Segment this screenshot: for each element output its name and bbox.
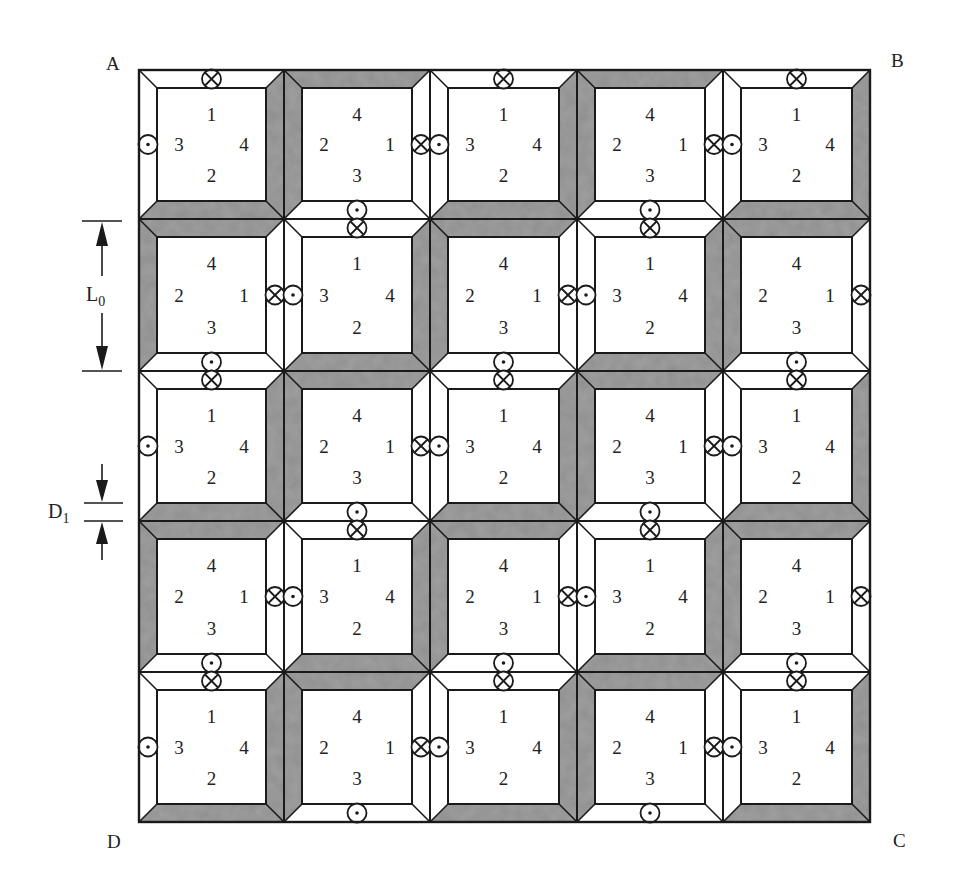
- current-in-cross-icon: [266, 286, 285, 305]
- label-top: 1: [645, 253, 655, 274]
- label-top: 1: [207, 405, 217, 426]
- label-right: 1: [678, 737, 688, 758]
- current-out-dot-icon: [430, 135, 449, 154]
- label-left: 3: [465, 436, 475, 457]
- coil-cell-r5c3: 1234: [430, 672, 577, 822]
- label-left: 2: [465, 285, 475, 306]
- label-bottom: 3: [499, 317, 509, 338]
- coil-cell-r2c2: 1234: [284, 219, 430, 371]
- current-in-cross-icon: [852, 286, 871, 305]
- current-in-cross-icon: [202, 70, 221, 89]
- current-out-dot-icon: [641, 503, 660, 522]
- label-bottom: 3: [207, 317, 217, 338]
- current-out-dot-icon: [430, 437, 449, 456]
- current-out-dot-icon: [348, 804, 367, 823]
- current-in-cross-icon: [202, 371, 221, 390]
- label-top: 4: [645, 706, 655, 727]
- label-right: 4: [532, 134, 542, 155]
- label-left: 2: [465, 586, 475, 607]
- corner-label-c: C: [893, 830, 906, 852]
- current-out-dot-icon: [641, 201, 660, 220]
- coil-cell-r2c5: 4321: [723, 219, 870, 371]
- label-bottom: 3: [645, 768, 655, 789]
- current-out-dot-icon: [723, 738, 742, 757]
- current-in-cross-icon: [641, 521, 660, 540]
- label-top: 4: [645, 104, 655, 125]
- label-right: 4: [239, 134, 249, 155]
- label-bottom: 3: [352, 768, 362, 789]
- coil-cell-r5c4: 4321: [577, 672, 723, 822]
- coil-cell-r1c3: 1234: [430, 70, 577, 219]
- current-out-dot-icon: [430, 738, 449, 757]
- current-in-cross-icon: [787, 70, 806, 89]
- label-left: 2: [319, 134, 329, 155]
- label-top: 1: [792, 706, 802, 727]
- label-right: 1: [385, 134, 395, 155]
- arrow-up-icon: [96, 522, 108, 544]
- coil-cell-r3c2: 4321: [284, 371, 430, 521]
- label-right: 4: [825, 436, 835, 457]
- label-bottom: 2: [645, 618, 655, 639]
- label-bottom: 3: [352, 467, 362, 488]
- coil-cell-r2c4: 1234: [577, 219, 723, 371]
- label-bottom: 3: [645, 165, 655, 186]
- current-out-dot-icon: [202, 654, 221, 673]
- current-out-dot-icon: [577, 286, 596, 305]
- coil-cell-r4c4: 1234: [577, 521, 723, 672]
- label-top: 4: [207, 555, 217, 576]
- label-top: 4: [352, 104, 362, 125]
- label-right: 1: [825, 586, 835, 607]
- corner-label-d: D: [107, 831, 121, 853]
- label-top: 1: [352, 253, 362, 274]
- label-top: 4: [792, 555, 802, 576]
- label-right: 4: [239, 436, 249, 457]
- label-top: 1: [352, 555, 362, 576]
- label-top: 1: [645, 555, 655, 576]
- current-out-dot-icon: [348, 503, 367, 522]
- label-bottom: 2: [352, 317, 362, 338]
- current-in-cross-icon: [705, 738, 724, 757]
- current-out-dot-icon: [787, 654, 806, 673]
- label-right: 1: [239, 285, 249, 306]
- current-out-dot-icon: [284, 286, 303, 305]
- current-in-cross-icon: [852, 587, 871, 606]
- label-top: 4: [645, 405, 655, 426]
- current-in-cross-icon: [787, 672, 806, 691]
- label-right: 4: [385, 586, 395, 607]
- current-out-dot-icon: [494, 654, 513, 673]
- current-out-dot-icon: [787, 353, 806, 372]
- label-right: 4: [678, 586, 688, 607]
- coil-cell-r3c3: 1234: [430, 371, 577, 521]
- label-right: 4: [532, 737, 542, 758]
- label-top: 1: [792, 104, 802, 125]
- current-out-dot-icon: [139, 135, 158, 154]
- label-top: 4: [352, 405, 362, 426]
- label-left: 3: [174, 134, 184, 155]
- winding-grid-diagram: 1234432112344321123443211234432112344321…: [0, 0, 956, 894]
- label-top: 4: [352, 706, 362, 727]
- current-out-dot-icon: [577, 587, 596, 606]
- label-right: 1: [385, 737, 395, 758]
- coil-cell-r3c1: 1234: [139, 371, 284, 521]
- current-out-dot-icon: [139, 738, 158, 757]
- label-right: 4: [825, 134, 835, 155]
- label-right: 1: [239, 586, 249, 607]
- dimension-annotations: [82, 221, 123, 560]
- label-left: 2: [319, 436, 329, 457]
- label-bottom: 2: [207, 467, 217, 488]
- label-right: 4: [239, 737, 249, 758]
- coil-cell-r4c3: 4321: [430, 521, 577, 672]
- label-bottom: 2: [792, 467, 802, 488]
- coil-cell-r1c2: 4321: [284, 70, 430, 219]
- label-left: 3: [465, 737, 475, 758]
- label-right: 4: [678, 285, 688, 306]
- current-out-dot-icon: [723, 135, 742, 154]
- label-right: 4: [532, 436, 542, 457]
- label-bottom: 2: [499, 768, 509, 789]
- current-in-cross-icon: [705, 135, 724, 154]
- current-out-dot-icon: [202, 353, 221, 372]
- arrow-down-icon: [96, 346, 108, 370]
- label-bottom: 2: [207, 165, 217, 186]
- coil-cell-r1c1: 1234: [139, 70, 284, 219]
- label-right: 1: [532, 285, 542, 306]
